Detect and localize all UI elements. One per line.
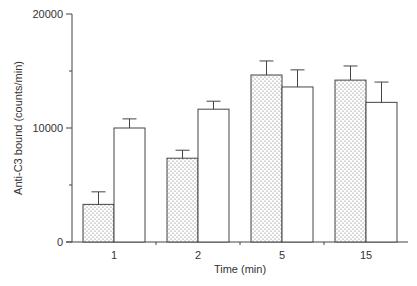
x-axis: 12515 [66, 242, 408, 261]
bar-chart: 01000020000 12515 Anti-C3 bound (counts/… [0, 0, 417, 286]
bar [198, 101, 229, 242]
y-tick-label: 20000 [32, 8, 63, 20]
bar [251, 61, 282, 242]
y-axis: 01000020000 [32, 8, 72, 248]
bar [282, 70, 313, 242]
x-axis-label: Time (min) [214, 263, 266, 275]
bar [335, 66, 366, 242]
y-axis-label: Anti-C3 bound (counts/min) [12, 61, 24, 195]
bar [167, 150, 198, 242]
y-tick-label: 10000 [32, 122, 63, 134]
x-tick-label: 2 [195, 249, 201, 261]
x-tick-label: 1 [111, 249, 117, 261]
bar [83, 192, 114, 242]
bar [366, 82, 397, 242]
bar [114, 119, 145, 242]
bars [83, 61, 397, 242]
x-tick-label: 5 [279, 249, 285, 261]
x-tick-label: 15 [360, 249, 372, 261]
y-tick-label: 0 [57, 236, 63, 248]
